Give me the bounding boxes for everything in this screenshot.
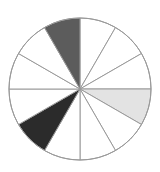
fraction-circle-diagram — [0, 0, 160, 172]
sectors-group — [9, 18, 151, 160]
